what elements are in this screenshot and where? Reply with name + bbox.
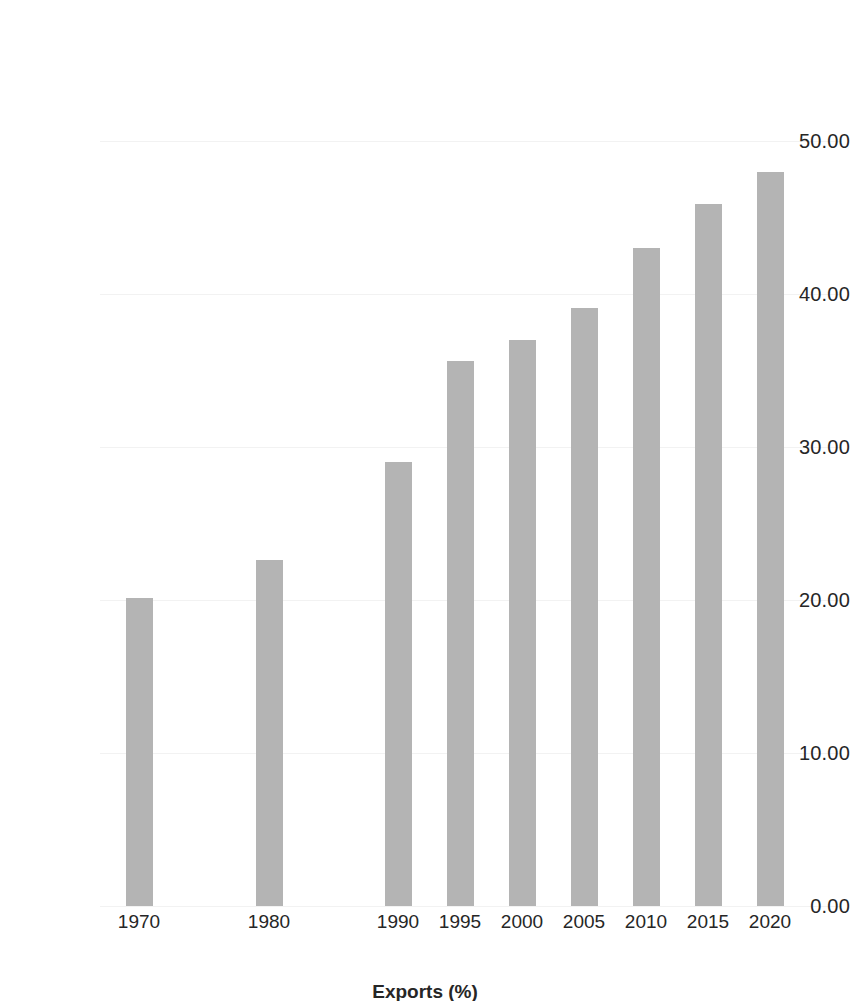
x-axis-tick-label: 2000 xyxy=(501,912,543,931)
bar[interactable] xyxy=(447,361,474,906)
axis-caption: Exports (%) xyxy=(0,982,850,1001)
bar[interactable] xyxy=(256,560,283,906)
bar[interactable] xyxy=(695,204,722,906)
x-axis-tick-label: 2020 xyxy=(749,912,791,931)
x-axis-tick-label: 2015 xyxy=(687,912,729,931)
bar[interactable] xyxy=(509,340,536,906)
x-axis-tick-label: 2010 xyxy=(625,912,667,931)
bar[interactable] xyxy=(757,172,784,906)
bar[interactable] xyxy=(633,248,660,906)
bars-group xyxy=(0,0,850,1001)
bar[interactable] xyxy=(126,598,153,906)
bar-chart: 50.0040.0030.0020.0010.000.00 1970198019… xyxy=(0,0,850,1001)
x-axis-tick-label: 1970 xyxy=(118,912,160,931)
x-axis-tick-label: 1980 xyxy=(248,912,290,931)
x-axis-tick-label: 2005 xyxy=(563,912,605,931)
x-axis-tick-label: 1995 xyxy=(439,912,481,931)
bar[interactable] xyxy=(571,308,598,906)
x-axis-tick-label: 1990 xyxy=(377,912,419,931)
bar[interactable] xyxy=(385,462,412,906)
